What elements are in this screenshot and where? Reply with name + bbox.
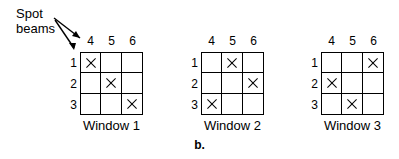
row-label-3-2: 3 <box>301 94 318 115</box>
column-header-1-0: 4 <box>80 33 101 49</box>
cell-r1-c4 <box>202 53 222 73</box>
figure-spot-beam-windows: Spot beams 4 5 6 1 2 3 Window 1 4 5 6 1 <box>0 0 399 159</box>
cell-r2-c4 <box>202 73 222 93</box>
column-header-3-1: 5 <box>342 33 363 49</box>
x-mark-icon <box>247 77 258 88</box>
row-label-2-2: 3 <box>181 94 198 115</box>
cell-r3-c5 <box>222 94 242 114</box>
window-caption-2: Window 2 <box>181 118 284 133</box>
cell-r3-c4 <box>81 94 101 114</box>
cell-r3-c4 <box>322 94 342 114</box>
cell-r2-c5 <box>342 73 362 93</box>
cell-r1-c4 <box>322 53 342 73</box>
window-group-2: 4 5 6 1 2 3 Window 2 <box>181 0 291 140</box>
window-group-1: 4 5 6 1 2 3 Window 1 <box>60 0 170 140</box>
cell-r1-c6 <box>363 53 383 73</box>
window-caption-3: Window 3 <box>301 118 399 133</box>
x-mark-icon <box>226 57 237 68</box>
cell-r2-c6 <box>243 73 263 93</box>
window-caption-1: Window 1 <box>60 118 163 133</box>
column-header-3-2: 6 <box>363 33 384 49</box>
column-header-3-0: 4 <box>321 33 342 49</box>
cell-r3-c6 <box>122 94 142 114</box>
row-labels-1: 1 2 3 <box>60 52 77 115</box>
cell-r3-c6 <box>363 94 383 114</box>
cell-r3-c5 <box>101 94 121 114</box>
column-header-2-0: 4 <box>201 33 222 49</box>
cell-r1-c5 <box>222 53 242 73</box>
cell-r2-c5 <box>101 73 121 93</box>
matrix-window-1 <box>80 52 143 115</box>
cell-r2-c6 <box>363 73 383 93</box>
x-mark-icon <box>105 77 116 88</box>
x-mark-icon <box>85 57 96 68</box>
column-headers-1: 4 5 6 <box>80 33 143 49</box>
x-mark-icon <box>346 98 357 109</box>
column-header-1-2: 6 <box>122 33 143 49</box>
cell-r1-c4 <box>81 53 101 73</box>
cell-r2-c4 <box>81 73 101 93</box>
row-labels-2: 1 2 3 <box>181 52 198 115</box>
row-label-2-1: 2 <box>181 73 198 94</box>
window-group-3: 4 5 6 1 2 3 Window 3 <box>301 0 399 140</box>
column-header-1-1: 5 <box>101 33 122 49</box>
row-labels-3: 1 2 3 <box>301 52 318 115</box>
cell-r3-c6 <box>243 94 263 114</box>
row-label-2-0: 1 <box>181 52 198 73</box>
row-label-3-0: 1 <box>301 52 318 73</box>
x-mark-icon <box>126 98 137 109</box>
cell-r1-c6 <box>122 53 142 73</box>
cell-r3-c4 <box>202 94 222 114</box>
column-headers-2: 4 5 6 <box>201 33 264 49</box>
x-mark-icon <box>206 98 217 109</box>
matrix-window-3 <box>321 52 384 115</box>
row-label-1-2: 3 <box>60 94 77 115</box>
x-mark-icon <box>326 77 337 88</box>
cell-r1-c5 <box>101 53 121 73</box>
column-header-2-2: 6 <box>243 33 264 49</box>
row-label-1-1: 2 <box>60 73 77 94</box>
column-header-2-1: 5 <box>222 33 243 49</box>
figure-caption: b. <box>0 138 399 152</box>
matrix-window-2 <box>201 52 264 115</box>
column-headers-3: 4 5 6 <box>321 33 384 49</box>
row-label-3-1: 2 <box>301 73 318 94</box>
cell-r2-c6 <box>122 73 142 93</box>
spot-beams-label-line1: Spot <box>16 6 43 21</box>
cell-r3-c5 <box>342 94 362 114</box>
row-label-1-0: 1 <box>60 52 77 73</box>
cell-r1-c6 <box>243 53 263 73</box>
cell-r1-c5 <box>342 53 362 73</box>
x-mark-icon <box>367 57 378 68</box>
cell-r2-c5 <box>222 73 242 93</box>
cell-r2-c4 <box>322 73 342 93</box>
